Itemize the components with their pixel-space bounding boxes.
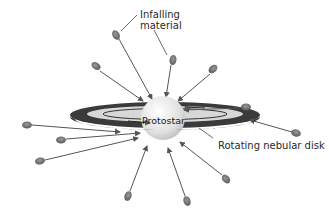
infalling-material-label: Infalling material bbox=[140, 9, 182, 31]
arrow-icon bbox=[168, 148, 185, 196]
diagram-canvas: Infalling material Protostar Rotating ne… bbox=[0, 0, 329, 220]
arrow-icon bbox=[180, 142, 222, 175]
protostar-diagram bbox=[0, 0, 329, 220]
blob-icon bbox=[290, 128, 301, 137]
arrow-icon bbox=[32, 125, 120, 132]
blob-icon bbox=[241, 104, 251, 111]
protostar-label: Protostar bbox=[142, 115, 185, 126]
blob-icon bbox=[207, 63, 219, 75]
arrow-icon bbox=[166, 65, 171, 97]
blob-icon bbox=[22, 122, 32, 129]
blob-icon bbox=[56, 137, 66, 144]
arrow-icon bbox=[119, 39, 152, 99]
arrow-icon bbox=[66, 133, 140, 139]
blob-icon bbox=[90, 60, 102, 71]
label-line: material bbox=[140, 20, 182, 31]
arrow-icon bbox=[250, 120, 292, 132]
label-line: Infalling bbox=[140, 9, 182, 20]
blob-icon bbox=[182, 195, 192, 207]
arrow-icon bbox=[178, 74, 210, 101]
nebular-disk-label: Rotating nebular disk bbox=[218, 140, 325, 151]
blob-icon bbox=[169, 54, 178, 65]
blob-icon bbox=[111, 29, 122, 41]
blob-icon bbox=[123, 190, 133, 202]
arrow-icon bbox=[130, 146, 147, 191]
arrow-icon bbox=[100, 71, 143, 101]
blob-icon bbox=[34, 157, 45, 166]
